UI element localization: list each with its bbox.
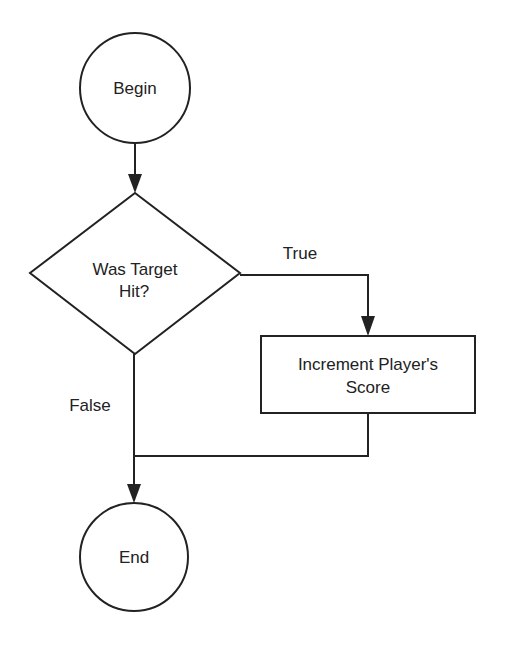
- true-label: True: [283, 244, 317, 263]
- edge-process-to-join: [134, 413, 368, 456]
- decision-label-line2: Hit?: [119, 282, 149, 301]
- process-label-line1: Increment Player's: [298, 355, 438, 374]
- decision-label-line1: Was Target: [92, 260, 177, 279]
- flowchart-canvas: Begin Was Target Hit? True Increment Pla…: [0, 0, 505, 654]
- process-node: Increment Player's Score: [261, 336, 475, 413]
- begin-node: Begin: [80, 33, 190, 143]
- false-label: False: [69, 396, 111, 415]
- arrow-down-icon: [127, 484, 141, 503]
- arrow-down-icon: [361, 316, 375, 336]
- begin-label: Begin: [113, 79, 156, 98]
- edge-false: False: [69, 354, 141, 503]
- edge-true: True: [240, 244, 375, 336]
- end-node: End: [80, 503, 188, 611]
- arrow-down-icon: [128, 174, 142, 193]
- process-label-line2: Score: [346, 378, 390, 397]
- end-label: End: [119, 548, 149, 567]
- decision-node: Was Target Hit?: [30, 193, 240, 354]
- edge-begin-to-decision: [128, 143, 142, 193]
